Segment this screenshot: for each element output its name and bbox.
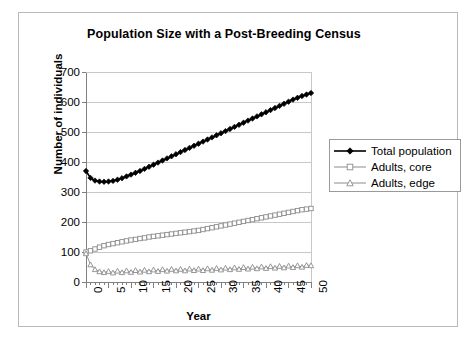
x-axis-tick-label: 40 bbox=[272, 280, 284, 293]
y-axis-tick-label: 400 bbox=[61, 156, 80, 168]
legend-item-adults_core[interactable]: Adults, core bbox=[333, 159, 460, 175]
legend-item-label: Total population bbox=[367, 145, 452, 157]
x-axis-tick-label: 25 bbox=[205, 280, 217, 293]
y-axis-tick-label: 300 bbox=[61, 186, 80, 198]
y-axis-tick-label: 200 bbox=[61, 216, 80, 228]
x-axis-tick-label: 50 bbox=[317, 280, 329, 293]
legend-marker-diamond-filled-icon bbox=[333, 144, 367, 158]
x-axis-tick-label: 0 bbox=[92, 287, 104, 293]
legend-item-label: Adults, core bbox=[367, 161, 432, 173]
series-adults_core bbox=[84, 206, 313, 254]
y-axis-title: Number of individuals bbox=[52, 34, 64, 194]
x-axis-tick-label: 15 bbox=[160, 280, 172, 293]
chart-frame: Population Size with a Post-Breeding Cen… bbox=[18, 12, 458, 327]
legend-item-total_population[interactable]: Total population bbox=[333, 143, 460, 159]
y-axis-tick-label: 700 bbox=[61, 66, 80, 78]
legend-marker-triangle-open-icon bbox=[333, 176, 367, 190]
y-axis-tick-label: 500 bbox=[61, 126, 80, 138]
chart-legend: Total populationAdults, coreAdults, edge bbox=[329, 139, 461, 192]
x-axis-title: Year bbox=[86, 310, 311, 322]
plot-area: 0100200300400500600700051015202530354045… bbox=[86, 72, 311, 282]
chart-canvas bbox=[86, 72, 311, 282]
legend-item-adults_edge[interactable]: Adults, edge bbox=[333, 175, 460, 191]
y-axis-tick-label: 600 bbox=[61, 96, 80, 108]
series-adults_edge bbox=[83, 251, 313, 275]
y-axis-tick-label: 100 bbox=[61, 246, 80, 258]
x-axis-tick-label: 10 bbox=[137, 280, 149, 293]
legend-marker-square-open-icon bbox=[333, 160, 367, 174]
y-axis-tick-label: 0 bbox=[74, 276, 80, 288]
series-total_population bbox=[83, 90, 313, 184]
x-axis-tick-label: 20 bbox=[182, 280, 194, 293]
x-axis-tick-label: 35 bbox=[250, 280, 262, 293]
legend-item-label: Adults, edge bbox=[367, 177, 435, 189]
chart-title: Population Size with a Post-Breeding Cen… bbox=[19, 27, 429, 41]
x-axis-tick-label: 5 bbox=[115, 287, 127, 293]
x-axis-tick-label: 45 bbox=[295, 280, 307, 293]
x-axis-tick-label: 30 bbox=[227, 280, 239, 293]
